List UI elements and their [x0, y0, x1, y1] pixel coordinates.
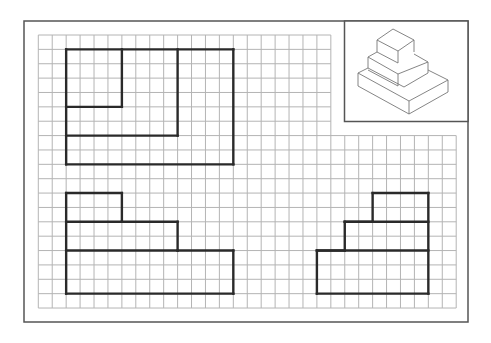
orthographic-drawing-sheet — [0, 0, 491, 343]
drawing-canvas — [0, 0, 491, 343]
